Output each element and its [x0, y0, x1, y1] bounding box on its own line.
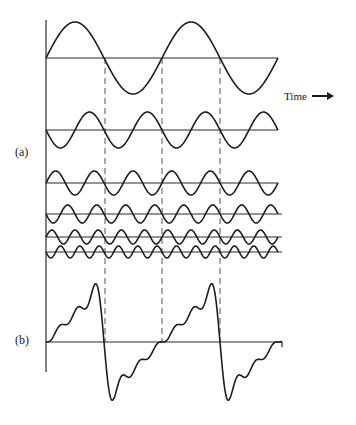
label-a: (a) [15, 145, 28, 160]
sum-waveform-group [46, 284, 282, 400]
harmonic-components-group [46, 22, 282, 258]
right-arrow-icon [312, 92, 334, 100]
dashed-period-markers [105, 58, 220, 342]
fourier-diagram [0, 0, 356, 425]
label-b: (b) [15, 333, 29, 348]
time-label-text: Time [284, 90, 307, 102]
time-axis-label: Time [284, 90, 334, 102]
